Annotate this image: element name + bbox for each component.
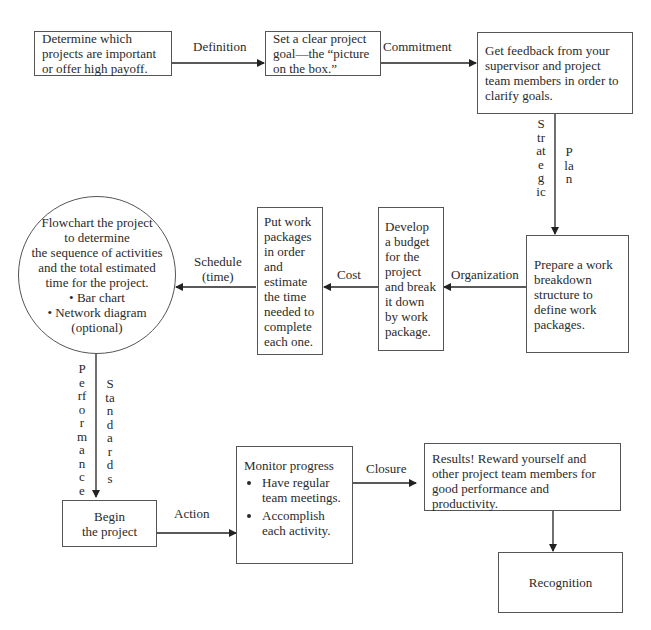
flowchart-bullet: • Network diagram [47,305,146,320]
edge-label-organization: Organization [451,267,519,282]
node-begin-project: Begin the project [62,500,157,547]
edge-label-definition: Definition [193,39,246,54]
node-feedback-text: Get feedback from your supervisor and pr… [485,43,625,103]
node-set-goal: Set a clear project goal—the “picture on… [265,31,381,76]
edge-label-plan: Plan [564,145,574,186]
flowchart-bullet: (optional) [71,320,122,335]
edge-label-cost: Cost [337,267,361,282]
edge-label-closure: Closure [366,461,406,476]
node-put-work-packages: Put work packages in order and estimate … [257,207,323,355]
node-get-feedback: Get feedback from your supervisor and pr… [477,32,633,114]
edge-label-standards: Standards [105,377,115,485]
edge-label-action: Action [174,506,209,521]
node-budget-text: Develop a budget for the project and bre… [385,219,437,339]
begin-line: the project [82,524,137,539]
edge-label-schedule-line2: (time) [194,269,242,284]
monitor-bullet: Accomplish each activity. [262,508,345,538]
edge-label-schedule-line1: Schedule [194,254,242,269]
node-wbs-text: Prepare a work breakdown structure to de… [534,257,621,332]
monitor-title: Monitor progress [244,458,345,473]
flowchart-line: to determine [64,230,129,245]
edge-label-commitment: Commitment [383,39,452,54]
node-recognition: Recognition [498,552,623,613]
edge-label-performance: Performance [77,362,87,497]
node-monitor-progress: Monitor progress Have regular team meeti… [236,446,353,564]
node-recognition-text: Recognition [529,575,593,590]
node-goal-text: Set a clear project goal—the “picture on… [273,31,373,76]
node-develop-budget: Develop a budget for the project and bre… [378,207,444,351]
flowchart-bullet: • Bar chart [69,290,125,305]
flowchart-line: time for the project. [45,275,148,290]
node-results: Results! Reward yourself and other proje… [424,443,621,511]
begin-line: Begin [94,509,125,524]
node-determine-text: Determine which projects are important o… [42,31,164,76]
node-determine-projects: Determine which projects are important o… [34,31,172,76]
edge-label-schedule: Schedule (time) [194,254,242,284]
node-results-text: Results! Reward yourself and other proje… [432,451,596,511]
edge-label-strategic: Strategic [536,117,546,198]
monitor-bullet: Have regular team meetings. [262,475,345,505]
flowchart-line: and the total estimated [38,260,155,275]
node-flowchart-project: Flowchart the project to determine the s… [18,196,176,354]
flowchart-line: Flowchart the project [41,215,152,230]
node-packages-text: Put work packages in order and estimate … [264,214,316,349]
node-work-breakdown: Prepare a work breakdown structure to de… [526,235,629,353]
flowchart-line: the sequence of activities [31,245,162,260]
